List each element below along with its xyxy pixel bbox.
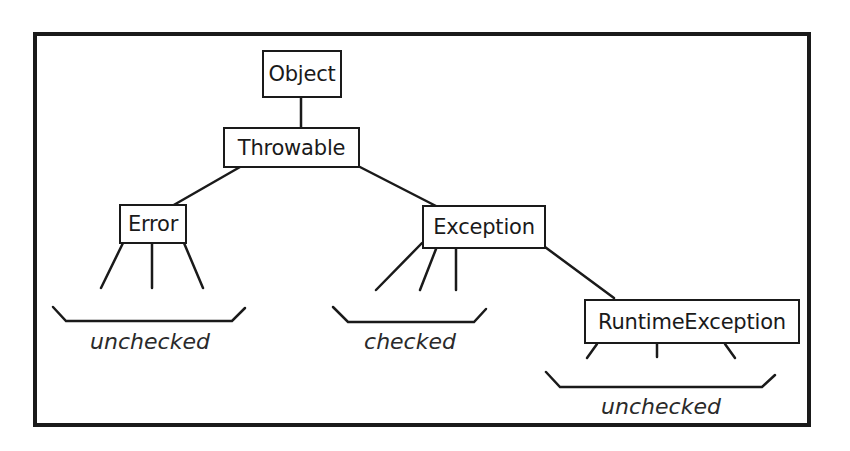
runtime-subclass-line-3 [725,344,735,358]
node-throwable: Throwable [223,127,360,168]
edge-throwable-error [172,167,240,206]
node-error: Error [119,204,187,244]
edge-throwable-exception [358,166,436,206]
edge-exception-runtime [545,247,614,298]
error-group-bracket [53,307,245,321]
node-runtime-exception: RuntimeException [584,299,800,344]
runtime-group-bracket [546,372,775,387]
exception-subclass-line-2 [420,249,436,290]
error-subclass-line-3 [184,243,203,288]
runtime-subclass-line-1 [587,344,597,358]
label-exception-checked: checked [364,329,456,354]
node-exception: Exception [422,205,546,249]
node-object: Object [262,50,342,98]
label-error-unchecked: unchecked [90,329,210,354]
exception-group-bracket [333,307,486,322]
label-runtime-unchecked: unchecked [601,394,721,419]
exception-subclass-line-1 [376,243,422,290]
error-subclass-line-1 [101,243,123,288]
